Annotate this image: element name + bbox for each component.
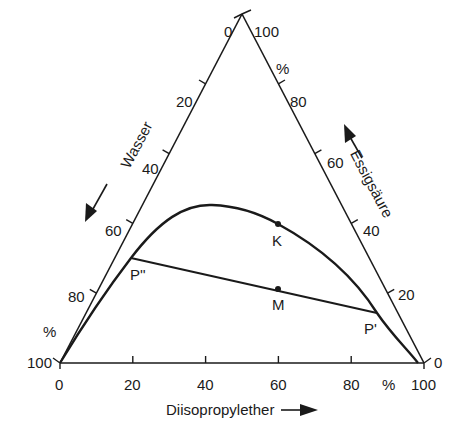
left-tick-label-60: 60 — [105, 222, 122, 239]
bottom-tick-label-0: 0 — [55, 376, 63, 393]
left-vertex-label: 100 — [27, 354, 52, 371]
top-vertex-hundred: 100 — [254, 23, 279, 40]
point-K-marker — [275, 221, 281, 227]
left-edge — [60, 14, 242, 363]
right-edge — [242, 14, 424, 363]
bottom-axis-title: Diisopropylether — [166, 401, 274, 418]
bottom-tick-label-100: 100 — [411, 376, 436, 393]
point-P1-label: P' — [364, 320, 377, 337]
right-tick-label-60: 60 — [327, 154, 344, 171]
point-M-label: M — [272, 296, 285, 313]
right-vertex-label: 0 — [434, 354, 442, 371]
bottom-axis-percent: % — [382, 376, 395, 393]
right-tick-label-40: 40 — [363, 222, 380, 239]
left-tick-label-80: 80 — [68, 288, 85, 305]
point-K-label: K — [272, 232, 282, 249]
point-M-marker — [275, 286, 281, 292]
right-axis-percent: % — [276, 60, 289, 77]
left-axis-arrow-icon — [85, 184, 107, 222]
point-P2-label: P'' — [130, 266, 146, 283]
left-axis-percent: % — [43, 323, 56, 340]
right-axis-title: Essigsäure — [347, 147, 397, 220]
bottom-tick-label-60: 60 — [270, 376, 287, 393]
bottom-axis-arrow-icon — [281, 404, 318, 416]
bottom-axis-ticks — [133, 356, 351, 363]
right-tick-label-20: 20 — [398, 286, 415, 303]
left-tick-label-40: 40 — [142, 160, 159, 177]
ternary-phase-diagram: K M P'' P' 0 100 % 20 40 60 80 % 100 80 … — [0, 0, 471, 437]
bottom-tick-label-80: 80 — [343, 376, 360, 393]
right-tick-label-80: 80 — [290, 93, 307, 110]
top-vertex-zero: 0 — [224, 23, 232, 40]
left-tick-label-20: 20 — [176, 93, 193, 110]
bottom-tick-label-40: 40 — [197, 376, 214, 393]
tie-line — [131, 258, 377, 313]
bottom-tick-label-20: 20 — [124, 376, 141, 393]
